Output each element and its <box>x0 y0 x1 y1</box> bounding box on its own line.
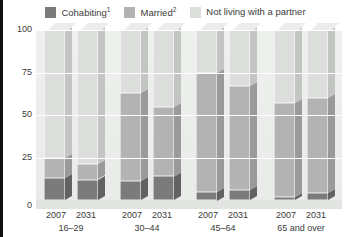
y-tick-50: 50 <box>2 110 32 119</box>
x-tick-year-2007: 2007 <box>45 210 67 221</box>
legend-swatch-married <box>124 7 135 18</box>
x-group-16–29: 2007203116–29 <box>38 210 104 234</box>
bar-segment-side <box>98 26 105 164</box>
legend-label-cohabiting: Cohabiting1 <box>61 7 110 18</box>
bar-segment-side <box>141 89 148 181</box>
bar-segment-side <box>174 26 181 107</box>
bar-segment-cohabiting <box>120 181 141 200</box>
bar-segment-side <box>295 26 302 103</box>
x-tick-age-group: 65 and over <box>268 223 334 234</box>
bar-segment-side <box>250 82 257 190</box>
legend-swatch-cohabiting <box>45 7 56 18</box>
chart-legend: Cohabiting1 Married2 Not living with a p… <box>0 0 351 24</box>
x-group-30–44: 2007203130–44 <box>114 210 180 234</box>
bar-segment-not-living-with-a-partner <box>153 30 174 107</box>
x-axis-labels: 2007203116–292007203130–442007203145–642… <box>36 210 342 237</box>
bar-segment-side <box>174 172 181 200</box>
y-tick-25: 25 <box>2 153 32 162</box>
x-tick-year-2031: 2031 <box>75 210 97 221</box>
bar-segment-married <box>196 73 217 192</box>
legend-item-cohabiting: Cohabiting1 <box>45 7 110 18</box>
bar-segment-side <box>98 176 105 200</box>
bar-segment-cohabiting <box>274 197 295 200</box>
x-tick-year-2007: 2007 <box>121 210 143 221</box>
x-group-45–64: 2007203145–64 <box>190 210 256 234</box>
bar-segment-side <box>65 26 72 158</box>
x-tick-age-group: 30–44 <box>114 223 180 234</box>
gridline-25 <box>36 158 342 159</box>
bar-segment-married <box>153 107 174 177</box>
bar-segment-not-living-with-a-partner <box>307 30 328 98</box>
bar-segment-side <box>217 68 224 191</box>
bar-segment-side <box>295 99 302 197</box>
legend-label-not-partnered: Not living with a partner <box>206 7 305 17</box>
bar-segment-not-living-with-a-partner <box>44 30 65 158</box>
x-tick-year-2007: 2007 <box>275 210 297 221</box>
x-tick-age-group: 16–29 <box>38 223 104 234</box>
bar-segment-not-living-with-a-partner <box>77 30 98 164</box>
bar-segment-not-living-with-a-partner <box>120 30 141 93</box>
legend-label-married: Married2 <box>140 7 176 18</box>
legend-item-married: Married2 <box>124 7 176 18</box>
gridline-50 <box>36 115 342 116</box>
bar-segment-not-living-with-a-partner <box>196 30 217 73</box>
bar-segment-married <box>44 158 65 178</box>
bar-segment-side <box>217 26 224 73</box>
x-tick-age-group: 45–64 <box>190 223 256 234</box>
bar-segment-side <box>141 26 148 93</box>
plot-floor <box>36 200 342 209</box>
x-tick-year-2031: 2031 <box>151 210 173 221</box>
bar-segment-married <box>77 164 98 179</box>
y-tick-75: 75 <box>2 68 32 77</box>
bar-segment-side <box>328 94 335 193</box>
bar-segment-married <box>307 98 328 193</box>
bar-segment-cohabiting <box>77 180 98 200</box>
bar-segment-married <box>229 86 250 190</box>
gridline-75 <box>36 73 342 74</box>
y-tick-100: 100 <box>2 25 32 34</box>
chart-plot-area: 100755025 0 2007203116–292007203130–4420… <box>0 24 351 237</box>
bar-segment-side <box>250 26 257 86</box>
bar-segment-cohabiting <box>44 178 65 200</box>
bar-segment-not-living-with-a-partner <box>229 30 250 86</box>
bar-segment-side <box>174 102 181 176</box>
bar-segment-married <box>274 103 295 197</box>
bar-segment-cohabiting <box>229 190 250 200</box>
bar-segment-cohabiting <box>153 176 174 200</box>
bar-segment-married <box>120 93 141 181</box>
bar-segment-cohabiting <box>307 193 328 200</box>
y-axis-labels: 100755025 <box>0 30 32 200</box>
x-tick-year-2031: 2031 <box>305 210 327 221</box>
legend-swatch-not-partnered <box>190 7 201 18</box>
gridline-100 <box>36 30 342 31</box>
bar-segment-side <box>328 26 335 98</box>
x-tick-year-2007: 2007 <box>197 210 219 221</box>
y-tick-0: 0 <box>0 200 32 210</box>
bar-segment-not-living-with-a-partner <box>274 30 295 103</box>
legend-item-not-partnered: Not living with a partner <box>190 7 305 18</box>
x-tick-year-2031: 2031 <box>227 210 249 221</box>
bar-segment-cohabiting <box>196 192 217 201</box>
x-group-65-and-over: 2007203165 and over <box>268 210 334 234</box>
